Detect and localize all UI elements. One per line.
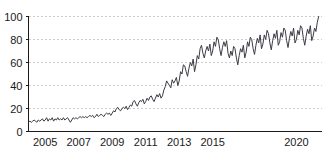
gridlines: [29, 17, 322, 109]
x-axis-ticks: 2005200720092011201320152020: [33, 136, 309, 148]
x-tick-label: 2011: [134, 136, 158, 148]
y-tick-label: 20: [10, 103, 22, 115]
y-tick-label: 100: [4, 11, 22, 23]
data-series-line: [29, 17, 319, 123]
y-tick-label: 80: [10, 34, 22, 46]
y-tick-label: 40: [10, 80, 22, 92]
x-tick-label: 2007: [66, 136, 90, 148]
y-tick-label: 0: [16, 126, 22, 138]
x-tick-label: 2005: [33, 136, 57, 148]
x-tick-label: 2015: [200, 136, 224, 148]
x-tick-label: 2020: [284, 136, 308, 148]
x-tick-label: 2009: [100, 136, 124, 148]
y-axis-ticks: 020406080100: [4, 11, 28, 138]
x-tick-label: 2013: [167, 136, 191, 148]
chart-container: 020406080100 200520072009201120132015202…: [0, 0, 327, 160]
line-chart: 020406080100 200520072009201120132015202…: [0, 0, 327, 160]
y-tick-label: 60: [10, 57, 22, 69]
